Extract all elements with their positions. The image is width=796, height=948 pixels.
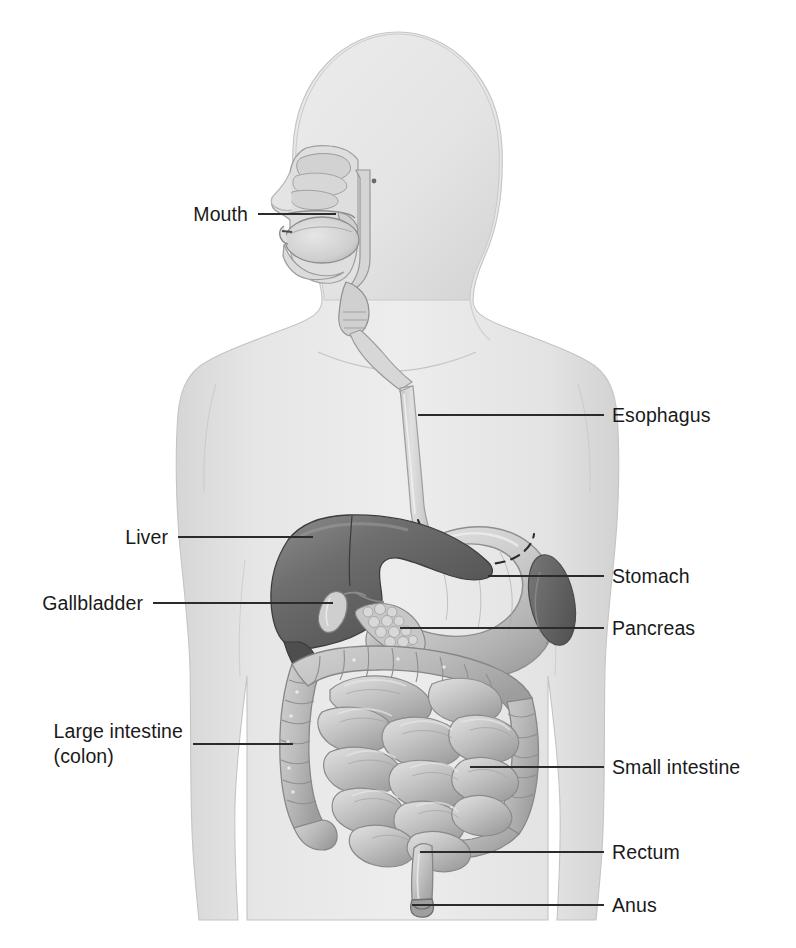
label-gallbladder: Gallbladder [42,591,143,616]
label-rectum: Rectum [612,840,680,865]
label-liver-text: Liver [125,526,168,548]
label-stomach-text: Stomach [612,565,690,587]
label-small-intestine: Small intestine [612,755,740,780]
label-anus: Anus [612,893,657,918]
label-pancreas: Pancreas [612,616,695,641]
tongue [285,217,359,263]
label-mouth: Mouth [193,202,248,227]
label-esophagus-text: Esophagus [612,404,710,426]
label-mouth-text: Mouth [193,203,248,225]
label-rectum-text: Rectum [612,841,680,863]
label-liver: Liver [125,525,168,550]
rectum-anus-group [411,844,434,918]
label-pancreas-text: Pancreas [612,617,695,639]
label-anus-text: Anus [612,894,657,916]
nose-profile [271,172,292,210]
anatomy-illustration [0,0,796,948]
label-gallbladder-text: Gallbladder [42,592,143,614]
anus [411,899,434,917]
sphenoid-marker [372,179,377,184]
label-small-intestine-text: Small intestine [612,756,740,778]
digestive-system-figure: Mouth Esophagus Liver Stomach Gallbladde… [0,0,796,948]
label-large-intestine: Large intestine (colon) [54,719,183,769]
mouth-opening [282,231,292,232]
label-large-intestine-line2: (colon) [54,744,183,769]
label-esophagus: Esophagus [612,403,710,428]
label-large-intestine-line1: Large intestine [54,719,183,744]
label-stomach: Stomach [612,564,690,589]
